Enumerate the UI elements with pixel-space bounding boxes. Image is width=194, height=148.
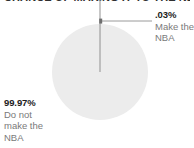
callout-label-do-not-make-nba-line3: NBA [4,132,43,144]
pie-chart-figure: CHANCE OF MAKING IT TO THE NBA .03% Make… [0,0,194,148]
callout-label-do-not-make-nba-line1: Do not [4,109,43,121]
callout-label-make-nba-line2: NBA [155,32,194,44]
callout-value-do-not-make-nba: 99.97% [4,97,43,109]
callout-label-do-not-make-nba-line2: make the [4,120,43,132]
callout-make-nba: .03% Make the NBA [155,9,194,44]
callout-value-make-nba: .03% [155,9,194,21]
callout-marker-dot-make-nba [99,19,102,24]
callout-do-not-make-nba: 99.97% Do not make the NBA [4,97,43,143]
callout-label-make-nba-line1: Make the [155,21,194,33]
